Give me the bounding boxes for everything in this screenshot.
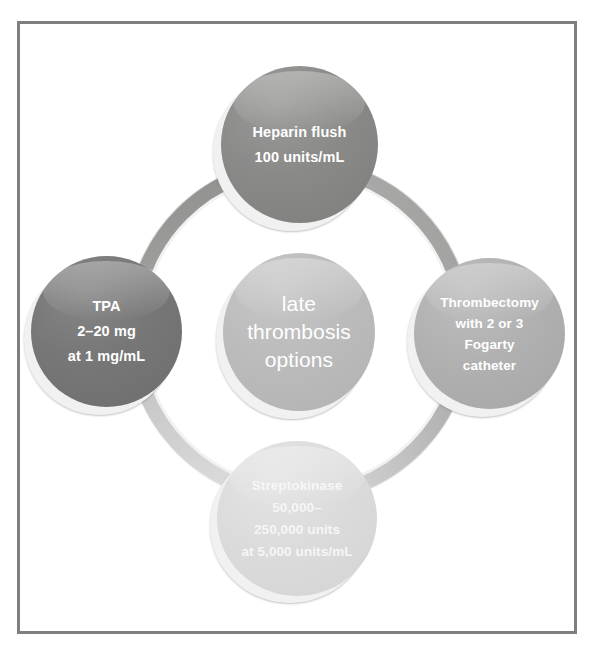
node-streptokinase-line-2: 50,000– xyxy=(272,497,322,519)
node-streptokinase-line-4: at 5,000 units/mL xyxy=(241,541,352,563)
node-tpa-line-2: 2–20 mg xyxy=(77,319,136,344)
center-line-1: late xyxy=(282,290,316,318)
node-streptokinase-line-3: 250,000 units xyxy=(254,519,340,541)
node-tpa-line-1: TPA xyxy=(92,294,120,319)
node-thrombectomy-line-2: with 2 or 3 xyxy=(456,313,524,334)
node-thrombectomy-line-1: Thrombectomy xyxy=(440,292,539,313)
node-heparin-flush-line-1: Heparin flush xyxy=(253,120,347,145)
figure-root: Heparin flush 100 units/mL TPA 2–20 mg a… xyxy=(0,0,597,657)
node-tpa-line-3: at 1 mg/mL xyxy=(68,344,146,369)
node-thrombectomy-line-3: Fogarty xyxy=(464,334,514,355)
center-line-2: thrombosis xyxy=(247,318,351,346)
node-streptokinase-line-1: Streptokinase xyxy=(252,475,343,497)
node-center-late-thrombosis-options: late thrombosis options xyxy=(223,253,375,411)
center-line-3: options xyxy=(265,346,333,374)
node-streptokinase: Streptokinase 50,000– 250,000 units at 5… xyxy=(217,441,377,596)
node-heparin-flush: Heparin flush 100 units/mL xyxy=(221,66,378,223)
node-heparin-flush-line-2: 100 units/mL xyxy=(255,145,345,170)
node-thrombectomy: Thrombectomy with 2 or 3 Fogarty cathete… xyxy=(414,258,565,409)
node-tpa: TPA 2–20 mg at 1 mg/mL xyxy=(31,256,182,407)
node-thrombectomy-line-4: catheter xyxy=(463,355,516,376)
